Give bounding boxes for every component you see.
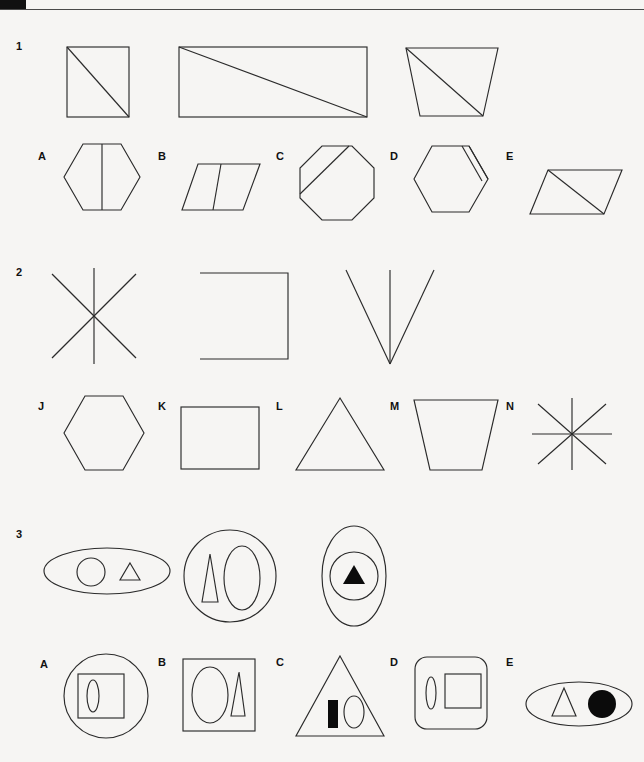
option-figure-hexagon-with-edge-chord[interactable] xyxy=(412,144,490,214)
option-figure-hexagon-with-vertical-line[interactable] xyxy=(62,142,142,212)
figure-trapezoid-with-diagonal xyxy=(404,46,500,118)
page-corner-marker xyxy=(0,0,26,9)
option-figure-circle-with-square-and-ellipse[interactable] xyxy=(62,652,150,740)
option-figure-octagon-with-corner-chord[interactable] xyxy=(298,144,376,222)
option-figure-triangle-with-bar-and-ellipse[interactable] xyxy=(294,654,386,738)
option-letter-3-e[interactable]: E xyxy=(506,656,513,668)
option-letter-1-b[interactable]: B xyxy=(158,150,166,162)
option-figure-triangle[interactable] xyxy=(294,396,386,472)
option-letter-2-k[interactable]: K xyxy=(158,400,166,412)
option-letter-3-b[interactable]: B xyxy=(158,656,166,668)
option-letter-2-m[interactable]: M xyxy=(390,400,399,412)
figure-wide-ellipse-with-circle-and-triangle xyxy=(42,546,172,596)
figure-open-square-left xyxy=(198,270,290,362)
page-top-rule xyxy=(0,0,644,10)
option-letter-1-e[interactable]: E xyxy=(506,150,513,162)
figure-v-with-vertical-line xyxy=(340,268,440,366)
option-figure-square-with-ellipse-and-triangle[interactable] xyxy=(182,658,256,732)
figure-wide-rectangle-with-diagonal xyxy=(178,46,368,118)
option-figure-eight-line-asterisk[interactable] xyxy=(528,396,616,472)
question-number-1: 1 xyxy=(16,40,22,52)
option-figure-hexagon[interactable] xyxy=(62,394,146,472)
option-figure-ellipse-with-triangle-and-filled-circle[interactable] xyxy=(524,678,634,730)
option-letter-1-c[interactable]: C xyxy=(276,150,284,162)
option-letter-2-n[interactable]: N xyxy=(506,400,514,412)
option-figure-trapezoid[interactable] xyxy=(410,398,500,472)
figure-tall-ellipse-with-circle-and-filled-triangle xyxy=(320,524,388,628)
figure-square-with-diagonal xyxy=(66,46,130,118)
option-letter-1-a[interactable]: A xyxy=(38,150,46,162)
option-figure-rectangle[interactable] xyxy=(180,406,260,470)
figure-circle-with-triangle-and-ellipse xyxy=(182,528,278,624)
puzzle-page: 1 A B C xyxy=(0,0,644,762)
question-number-3: 3 xyxy=(16,528,22,540)
option-letter-3-c[interactable]: C xyxy=(276,656,284,668)
option-figure-rounded-square-with-ellipse-and-square[interactable] xyxy=(414,656,488,730)
option-letter-2-j[interactable]: J xyxy=(38,400,44,412)
option-letter-2-l[interactable]: L xyxy=(276,400,283,412)
option-letter-3-a[interactable]: A xyxy=(40,658,48,670)
option-letter-3-d[interactable]: D xyxy=(390,656,398,668)
option-figure-parallelogram-with-diagonal[interactable] xyxy=(528,168,624,216)
figure-six-line-asterisk xyxy=(44,266,144,366)
option-figure-parallelogram-with-vertical-line[interactable] xyxy=(180,162,262,212)
question-number-2: 2 xyxy=(16,266,22,278)
option-letter-1-d[interactable]: D xyxy=(390,150,398,162)
